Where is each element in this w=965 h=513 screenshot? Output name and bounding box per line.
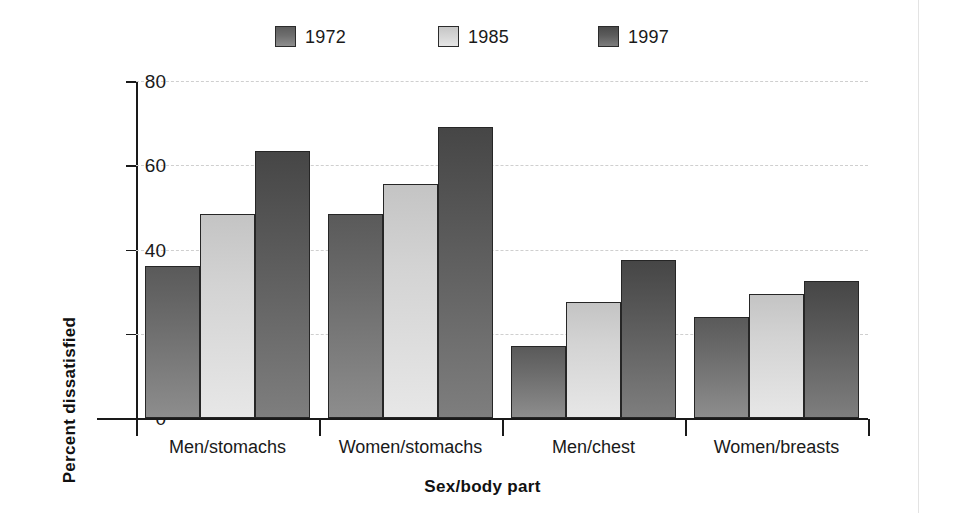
- y-tick-label-80: 80: [114, 72, 166, 91]
- legend-swatch-1997-icon: [598, 26, 619, 47]
- gridline-60: [136, 165, 868, 166]
- chart-figure: 1972 1985 1997 80 60 40 20 0 Men/: [0, 0, 965, 513]
- chart-legend: 1972 1985 1997: [120, 26, 820, 54]
- y-tick-40: 40: [114, 240, 166, 259]
- gridline-80: [136, 81, 868, 82]
- legend-item-1997: 1997: [598, 26, 669, 47]
- legend-swatch-1972-icon: [275, 26, 296, 47]
- bar-women-breasts-1997: [804, 281, 859, 418]
- x-tick-2: [502, 419, 504, 436]
- bar-women-stomachs-1972: [328, 214, 383, 418]
- plot-area: 80 60 40 20 0: [136, 81, 868, 418]
- x-tick-0: [136, 419, 138, 436]
- y-tick-label-40: 40: [114, 240, 166, 259]
- y-tick-80: 80: [114, 72, 166, 91]
- bar-women-breasts-1985: [749, 294, 804, 418]
- x-tick-1: [319, 419, 321, 436]
- x-tick-3: [685, 419, 687, 436]
- x-axis-title: Sex/body part: [0, 477, 965, 497]
- bar-men-chest-1997: [621, 260, 676, 418]
- x-axis-label-2: Women/stomachs: [339, 438, 483, 458]
- bar-men-stomachs-1997: [255, 151, 310, 418]
- y-tick-60: 60: [114, 156, 166, 175]
- bar-women-stomachs-1985: [383, 184, 438, 418]
- bar-men-stomachs-1972: [145, 266, 200, 418]
- y-tick-label-60: 60: [114, 156, 166, 175]
- page-margin-rule: [918, 0, 919, 513]
- legend-swatch-1985-icon: [438, 26, 459, 47]
- bar-women-stomachs-1997: [438, 127, 493, 418]
- x-axis-label-1: Men/stomachs: [169, 438, 286, 458]
- y-axis-title: Percent dissatisfied: [60, 280, 80, 513]
- legend-label-1997: 1997: [628, 28, 669, 46]
- legend-item-1985: 1985: [438, 26, 509, 47]
- bar-men-chest-1985: [566, 302, 621, 418]
- legend-item-1972: 1972: [275, 26, 346, 47]
- x-axis-label-3: Men/chest: [552, 438, 635, 458]
- bar-men-chest-1972: [511, 346, 566, 418]
- legend-label-1985: 1985: [468, 28, 509, 46]
- x-tick-4: [868, 419, 870, 436]
- x-axis-line: [97, 418, 868, 420]
- legend-label-1972: 1972: [305, 28, 346, 46]
- bar-men-stomachs-1985: [200, 214, 255, 418]
- bar-women-breasts-1972: [694, 317, 749, 418]
- x-axis-label-4: Women/breasts: [714, 438, 840, 458]
